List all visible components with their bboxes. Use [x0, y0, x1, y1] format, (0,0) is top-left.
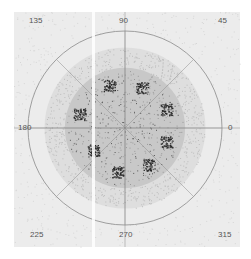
angle-label-315: 315: [218, 230, 231, 240]
angle-label-270: 270: [119, 230, 132, 240]
angle-label-225: 225: [30, 230, 43, 240]
angle-label-135: 135: [29, 16, 42, 26]
angle-label-90: 90: [119, 16, 128, 26]
angle-label-45: 45: [218, 16, 227, 26]
angle-label-180: 180: [18, 123, 31, 133]
polar-plot-canvas: [0, 0, 251, 259]
angle-label-0: 0: [228, 123, 232, 133]
